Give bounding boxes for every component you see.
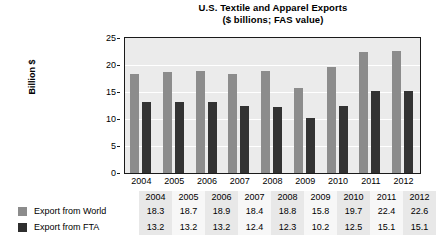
bar-world-2008 bbox=[261, 71, 270, 173]
y-axis-tick-mark bbox=[117, 119, 120, 120]
table-header-2007: 2007 bbox=[238, 191, 271, 203]
table-cell: 12.3 bbox=[271, 219, 304, 235]
legend-swatch-icon bbox=[18, 207, 27, 216]
table-cell: 18.7 bbox=[172, 203, 205, 219]
legend-label: Export from World bbox=[34, 206, 106, 216]
y-axis-tick-mark bbox=[117, 146, 120, 147]
table-cell: 15.1 bbox=[370, 219, 403, 235]
bar-world-2006 bbox=[196, 71, 205, 173]
table-corner-cell bbox=[16, 191, 139, 203]
x-axis-label-2007: 2007 bbox=[223, 176, 256, 187]
table-header-2012: 2012 bbox=[403, 191, 436, 203]
y-axis-tick-mark bbox=[117, 38, 120, 39]
bar-group-2011 bbox=[354, 38, 387, 173]
bar-group-2008 bbox=[256, 38, 289, 173]
bar-fta-2009 bbox=[306, 118, 315, 173]
bar-world-2012 bbox=[392, 51, 401, 173]
chart-page: U.S. Textile and Apparel Exports ($ bill… bbox=[0, 0, 438, 250]
table-header-2006: 2006 bbox=[205, 191, 238, 203]
table-cell: 18.9 bbox=[205, 203, 238, 219]
bar-fta-2010 bbox=[339, 106, 348, 174]
table-cell: 22.4 bbox=[370, 203, 403, 219]
bar-group-2007 bbox=[223, 38, 256, 173]
table-row: Export from World18.318.718.918.418.815.… bbox=[16, 203, 436, 219]
bar-world-2011 bbox=[359, 52, 368, 173]
table-header-2005: 2005 bbox=[172, 191, 205, 203]
table-cell: 22.6 bbox=[403, 203, 436, 219]
bar-world-2004 bbox=[130, 74, 139, 173]
x-axis-label-2011: 2011 bbox=[354, 176, 387, 187]
table-cell: 10.2 bbox=[304, 219, 337, 235]
table-cell: 12.4 bbox=[238, 219, 271, 235]
x-axis-label-2009: 2009 bbox=[289, 176, 322, 187]
bar-group-2012 bbox=[387, 38, 420, 173]
x-axis-label-2008: 2008 bbox=[256, 176, 289, 187]
table-cell: 12.5 bbox=[337, 219, 370, 235]
bar-fta-2007 bbox=[240, 106, 249, 173]
bar-fta-2011 bbox=[371, 91, 380, 173]
y-axis-tick-20: 20 bbox=[106, 61, 116, 70]
bar-group-2009 bbox=[289, 38, 322, 173]
bar-group-2004 bbox=[125, 38, 158, 173]
legend-item-world: Export from World bbox=[16, 203, 139, 219]
x-axis-label-2012: 2012 bbox=[387, 176, 420, 187]
y-axis-tick-0: 0 bbox=[111, 169, 116, 178]
y-axis-tick-mark bbox=[117, 92, 120, 93]
table-cell: 15.8 bbox=[304, 203, 337, 219]
x-axis-label-2010: 2010 bbox=[322, 176, 355, 187]
bar-group-2010 bbox=[322, 38, 355, 173]
page-title: U.S. Textile and Apparel Exports ($ bill… bbox=[124, 2, 422, 26]
table-cell: 13.2 bbox=[139, 219, 172, 235]
y-axis-tick-15: 15 bbox=[106, 88, 116, 97]
bar-world-2009 bbox=[294, 88, 303, 173]
bar-fta-2005 bbox=[175, 102, 184, 173]
legend-label: Export from FTA bbox=[34, 222, 99, 232]
table-cell: 13.2 bbox=[205, 219, 238, 235]
table-header-2011: 2011 bbox=[370, 191, 403, 203]
table-header-row: 200420052006200720082009201020112012 bbox=[16, 191, 436, 203]
data-table: 200420052006200720082009201020112012 Exp… bbox=[16, 191, 436, 235]
y-axis-tick-10: 10 bbox=[106, 115, 116, 124]
legend-swatch-icon bbox=[18, 223, 27, 232]
y-axis-tick-25: 25 bbox=[106, 34, 116, 43]
x-axis-tick-labels: 200420052006200720082009201020112012 bbox=[125, 176, 420, 188]
bar-group-2005 bbox=[158, 38, 191, 173]
x-axis-label-2005: 2005 bbox=[158, 176, 191, 187]
x-axis-label-2006: 2006 bbox=[191, 176, 224, 187]
table-cell: 19.7 bbox=[337, 203, 370, 219]
bars-layer bbox=[125, 38, 420, 173]
y-axis-tick-mark bbox=[117, 173, 120, 174]
table-cell: 13.2 bbox=[172, 219, 205, 235]
x-axis-label-2004: 2004 bbox=[125, 176, 158, 187]
bar-fta-2008 bbox=[273, 107, 282, 173]
y-axis-tick-mark bbox=[117, 65, 120, 66]
bar-fta-2006 bbox=[208, 102, 217, 173]
bar-fta-2004 bbox=[142, 102, 151, 173]
table-cell: 18.3 bbox=[139, 203, 172, 219]
table-cell: 18.8 bbox=[271, 203, 304, 219]
y-axis-ticks: 0510152025 bbox=[94, 37, 120, 174]
chart-title-subtitle: ($ billions; FAS value) bbox=[124, 14, 422, 26]
table-header-2008: 2008 bbox=[271, 191, 304, 203]
table-cell: 15.1 bbox=[403, 219, 436, 235]
y-axis-label: Billion $ bbox=[27, 37, 37, 117]
chart-title-main: U.S. Textile and Apparel Exports bbox=[124, 2, 422, 14]
bar-world-2005 bbox=[163, 72, 172, 173]
bar-fta-2012 bbox=[404, 91, 413, 173]
table-header-2004: 2004 bbox=[139, 191, 172, 203]
table-cell: 18.4 bbox=[238, 203, 271, 219]
bar-world-2007 bbox=[228, 74, 237, 173]
bar-group-2006 bbox=[191, 38, 224, 173]
table-body: Export from World18.318.718.918.418.815.… bbox=[16, 203, 436, 235]
y-axis-tick-5: 5 bbox=[111, 142, 116, 151]
table-row: Export from FTA13.213.213.212.412.310.21… bbox=[16, 219, 436, 235]
table-header-2009: 2009 bbox=[304, 191, 337, 203]
table-header-2010: 2010 bbox=[337, 191, 370, 203]
legend-item-fta: Export from FTA bbox=[16, 219, 139, 235]
bar-world-2010 bbox=[327, 67, 336, 173]
